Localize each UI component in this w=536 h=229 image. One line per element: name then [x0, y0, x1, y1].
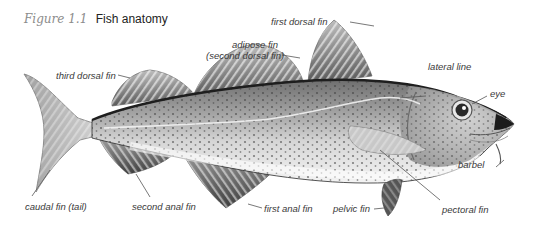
- label-eye: eye: [490, 88, 505, 99]
- label-first-anal-fin: first anal fin: [264, 203, 313, 214]
- label-pectoral-fin: pectoral fin: [442, 204, 488, 215]
- label-first-dorsal-fin: first dorsal fin: [271, 16, 328, 27]
- pelvic-fin-shape: [382, 179, 402, 216]
- first-dorsal-fin-shape: [308, 20, 372, 82]
- label-lateral-line: lateral line: [428, 61, 471, 72]
- label-second-anal-fin: second anal fin: [132, 201, 196, 212]
- caudal-fin-shape: [24, 74, 96, 192]
- label-adipose-fin-line1: adipose fin: [226, 39, 306, 50]
- label-adipose-fin-line2: (second dorsal fin): [206, 50, 306, 61]
- label-adipose-fin: adipose fin (second dorsal fin): [226, 39, 306, 61]
- label-pelvic-fin: pelvic fin: [333, 203, 370, 214]
- label-caudal-fin: caudal fin (tail): [25, 201, 87, 212]
- fish-illustration: [0, 0, 536, 229]
- eye-shape: [452, 100, 472, 120]
- label-barbel: barbel: [458, 159, 484, 170]
- label-third-dorsal-fin: third dorsal fin: [56, 70, 116, 81]
